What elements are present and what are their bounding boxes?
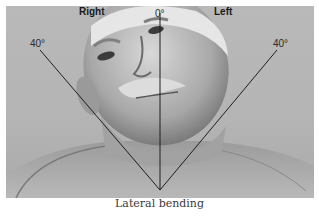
center-angle-label: 0° xyxy=(155,8,165,19)
right-direction-label: Right xyxy=(79,6,105,17)
figure-caption: Lateral bending xyxy=(0,197,319,210)
right-angle-label: 40° xyxy=(30,38,45,49)
angle-diagram xyxy=(0,0,319,219)
left-direction-label: Left xyxy=(214,6,232,17)
left-bend-line xyxy=(160,50,277,190)
left-angle-label: 40° xyxy=(273,38,288,49)
right-bend-line xyxy=(40,50,160,190)
